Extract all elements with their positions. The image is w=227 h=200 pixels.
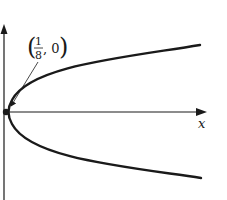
label-leader-line (11, 62, 38, 106)
vertex-point (3, 109, 9, 115)
parabola-diagram: x ( 1 8 , 0 ) (0, 0, 227, 200)
focus-point-label: ( 1 8 , 0 ) (27, 33, 68, 62)
x-axis-label: x (198, 116, 206, 131)
x-axis-arrow-icon (196, 108, 207, 116)
label-close-paren: ) (59, 33, 68, 61)
label-denominator: 8 (35, 49, 42, 62)
label-comma-value: , 0 (43, 41, 60, 56)
label-numerator: 1 (35, 35, 42, 48)
y-axis-arrow-icon (1, 24, 8, 34)
